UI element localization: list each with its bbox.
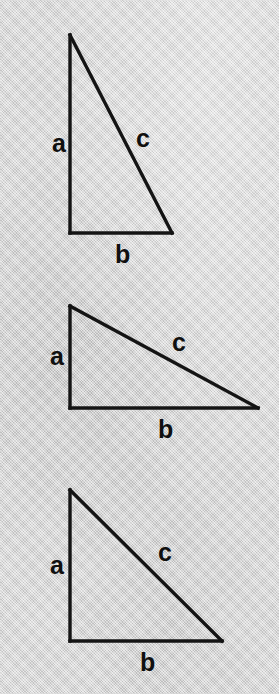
triangle-3-label-a: a bbox=[50, 553, 64, 578]
triangle-3-label-c: c bbox=[158, 540, 172, 565]
triangle-2-label-c: c bbox=[172, 330, 186, 355]
triangle-3-hypotenuse-c bbox=[70, 490, 222, 641]
triangle-2-label-b: b bbox=[158, 417, 173, 442]
triangle-3-label-b: b bbox=[140, 650, 155, 675]
triangle-2-label-a: a bbox=[50, 344, 64, 369]
triangle-1-label-c: c bbox=[136, 126, 150, 151]
triangle-2-shape bbox=[70, 306, 258, 408]
triangle-1-hypotenuse-c bbox=[70, 35, 172, 233]
triangle-1-shape bbox=[70, 35, 172, 233]
triangle-2-hypotenuse-c bbox=[70, 306, 258, 408]
triangle-3-shape bbox=[70, 490, 222, 641]
triangle-1-label-a: a bbox=[52, 131, 66, 156]
triangle-1-label-b: b bbox=[115, 242, 130, 267]
diagram-page: a b c a b c a b c bbox=[0, 0, 279, 694]
triangles-figure bbox=[0, 0, 279, 694]
